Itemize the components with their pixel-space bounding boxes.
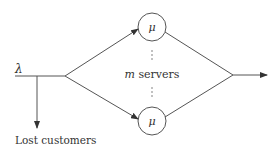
vertical-ellipsis-top <box>151 50 152 59</box>
merge-from-bottom-server <box>165 75 233 117</box>
lost-customers-label: Lost customers <box>15 134 96 146</box>
arrival-rate-label: λ <box>14 62 23 76</box>
service-rate-bottom: μ <box>148 115 155 128</box>
queueing-diagram: λ Lost customers μ μ m servers <box>0 0 279 152</box>
service-rate-top: μ <box>148 21 155 34</box>
vertical-ellipsis-bottom <box>151 87 152 96</box>
servers-count-label: m servers <box>125 68 180 81</box>
branch-to-bottom-server <box>65 76 138 119</box>
